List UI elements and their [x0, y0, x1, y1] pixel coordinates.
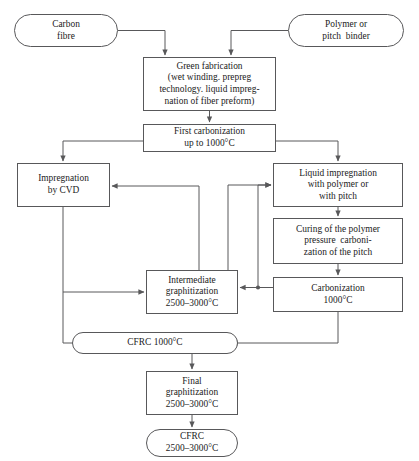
node-curing-polymer-line-2: pressure carboni- — [304, 235, 372, 247]
node-polymer-binder-line-1: Polymer or — [325, 19, 367, 31]
node-cfrc-1000c[interactable]: CFRC 1000°C — [72, 332, 238, 354]
edge-polymer-to-green — [231, 31, 288, 56]
node-first-carbonization-line-1: First carbonization — [174, 126, 245, 138]
node-final-graphitization-line-3: 2500–3000°C — [166, 399, 218, 411]
node-polymer-or-pitch-binder[interactable]: Polymer or pitch binder — [288, 14, 404, 47]
node-final-graphitization-line-1: Final — [182, 376, 201, 388]
node-intermediate-graphitization[interactable]: Intermediate graphitization 2500–3000°C — [146, 270, 238, 314]
edge-intermediate-to-cvd — [112, 186, 199, 270]
node-final-graphitization-line-2: graphitization — [166, 387, 218, 399]
flowchart-diagram: Carbon fibre Polymer or pitch binder Gre… — [0, 0, 419, 461]
node-green-fabrication-line-1: Green fabrication — [176, 61, 242, 73]
page-corner-mark — [410, 1, 417, 9]
edge-cvd-to-intermediate — [63, 207, 144, 292]
node-cfrc-1000c-line-1: CFRC 1000°C — [127, 337, 182, 349]
edge-first-carbonization-to-cvd — [63, 141, 143, 161]
node-carbonization[interactable]: Carbonization 1000°C — [273, 277, 403, 312]
node-carbon-fibre-line-2: fibre — [57, 31, 75, 43]
node-impregnation-cvd-line-2: by CVD — [48, 185, 80, 197]
node-liquid-impregnation-line-3: with pitch — [319, 191, 357, 203]
node-carbonization-line-1: Carbonization — [311, 283, 364, 295]
node-liquid-impregnation-line-1: Liquid impregnation — [299, 168, 377, 180]
node-liquid-impregnation-line-2: with polymer or — [308, 179, 369, 191]
node-curing-of-the-polymer[interactable]: Curing of the polymer pressure carboni- … — [273, 218, 403, 264]
edge-first-carbonization-to-liquid — [276, 141, 338, 161]
node-green-fabrication-line-3: technology. liquid impreg- — [159, 84, 259, 96]
node-green-fabrication-line-2: (wet winding. prepreg — [168, 72, 251, 84]
node-intermediate-line-2: graphitization — [166, 286, 218, 298]
node-intermediate-line-1: Intermediate — [168, 275, 216, 287]
edge-intermediate-to-liquid — [228, 185, 271, 270]
node-intermediate-line-3: 2500–3000°C — [166, 298, 218, 310]
node-cfrc-final-line-1: CFRC — [180, 431, 204, 443]
junction-dot-carbonization — [256, 285, 260, 289]
node-green-fabrication[interactable]: Green fabrication (wet winding. prepreg … — [143, 57, 276, 111]
node-curing-polymer-line-1: Curing of the polymer — [296, 224, 380, 236]
node-final-graphitization[interactable]: Final graphitization 2500–3000°C — [146, 371, 238, 415]
node-green-fabrication-line-4: nation of fiber preform) — [165, 96, 255, 108]
edge-carbon-fibre-to-green — [118, 31, 165, 56]
node-carbon-fibre-line-1: Carbon — [52, 19, 80, 31]
node-curing-polymer-line-3: zation of the pitch — [304, 247, 372, 259]
node-first-carbonization-line-2: up to 1000°C — [184, 138, 234, 150]
node-cfrc-2500-3000c[interactable]: CFRC 2500–3000°C — [146, 429, 238, 457]
node-carbon-fibre[interactable]: Carbon fibre — [14, 14, 118, 47]
node-liquid-impregnation[interactable]: Liquid impregnation with polymer or with… — [273, 163, 403, 207]
node-first-carbonization[interactable]: First carbonization up to 1000°C — [143, 124, 276, 152]
edge-carbonization-to-cfrc1000 — [232, 312, 338, 343]
node-cfrc-final-line-2: 2500–3000°C — [166, 443, 218, 455]
edge-carbonization-recycle-to-liquid — [258, 185, 271, 288]
node-impregnation-cvd-line-1: Impregnation — [38, 173, 89, 185]
node-polymer-binder-line-2: pitch binder — [322, 31, 370, 43]
node-impregnation-by-cvd[interactable]: Impregnation by CVD — [17, 163, 110, 207]
node-carbonization-line-2: 1000°C — [324, 295, 353, 307]
